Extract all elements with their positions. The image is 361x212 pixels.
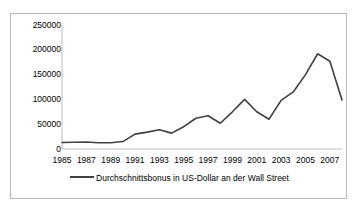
x-axis-tick-label: 1991 bbox=[126, 155, 145, 165]
legend-line-swatch-icon bbox=[70, 176, 94, 178]
x-axis-tick-label: 1987 bbox=[77, 155, 96, 165]
chart-card: 250000200000150000100000500000 198519871… bbox=[10, 13, 347, 199]
chart-legend: Durchschnittsbonus in US-Dollar an der W… bbox=[11, 172, 348, 183]
x-axis-tick-label: 2005 bbox=[296, 155, 315, 165]
x-axis-tick-label: 1995 bbox=[174, 155, 193, 165]
x-axis-tick-label: 1997 bbox=[199, 155, 218, 165]
x-axis-tick-label: 1999 bbox=[223, 155, 242, 165]
x-axis-tick-labels: 1985198719891991199319951997199920012003… bbox=[62, 155, 348, 171]
x-axis-tick-label: 2007 bbox=[320, 155, 339, 165]
x-axis-tick-label: 2003 bbox=[272, 155, 291, 165]
data-series-line bbox=[62, 54, 342, 143]
x-axis-tick-label: 1993 bbox=[150, 155, 169, 165]
x-axis-tick-label: 1985 bbox=[53, 155, 72, 165]
x-axis-tick-label: 1989 bbox=[101, 155, 120, 165]
x-axis-tick-label: 2001 bbox=[247, 155, 266, 165]
legend-entry-label: Durchschnittsbonus in US-Dollar an der W… bbox=[96, 173, 289, 183]
